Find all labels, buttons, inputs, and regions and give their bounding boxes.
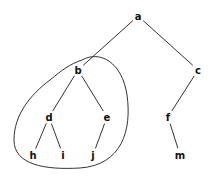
edge-e-j xyxy=(95,124,104,149)
edge-b-d xyxy=(53,76,75,111)
node-c: c xyxy=(195,65,201,76)
tree-nodes: abcdefhijm xyxy=(29,11,201,161)
edge-d-i xyxy=(51,124,60,149)
node-b: b xyxy=(74,65,81,76)
tree-diagram: abcdefhijm xyxy=(0,0,213,176)
edge-b-e xyxy=(82,76,104,111)
node-f: f xyxy=(166,112,171,123)
edge-c-f xyxy=(172,76,194,111)
node-i: i xyxy=(61,150,64,161)
node-m: m xyxy=(175,150,185,161)
tree-edges xyxy=(36,21,195,149)
node-e: e xyxy=(104,112,111,123)
edge-a-b xyxy=(83,21,133,66)
edge-a-c xyxy=(143,21,193,66)
node-h: h xyxy=(29,150,36,161)
edge-d-h xyxy=(36,123,47,148)
edge-f-m xyxy=(170,124,178,149)
node-j: j xyxy=(90,150,94,161)
node-d: d xyxy=(45,112,52,123)
node-a: a xyxy=(135,11,142,22)
